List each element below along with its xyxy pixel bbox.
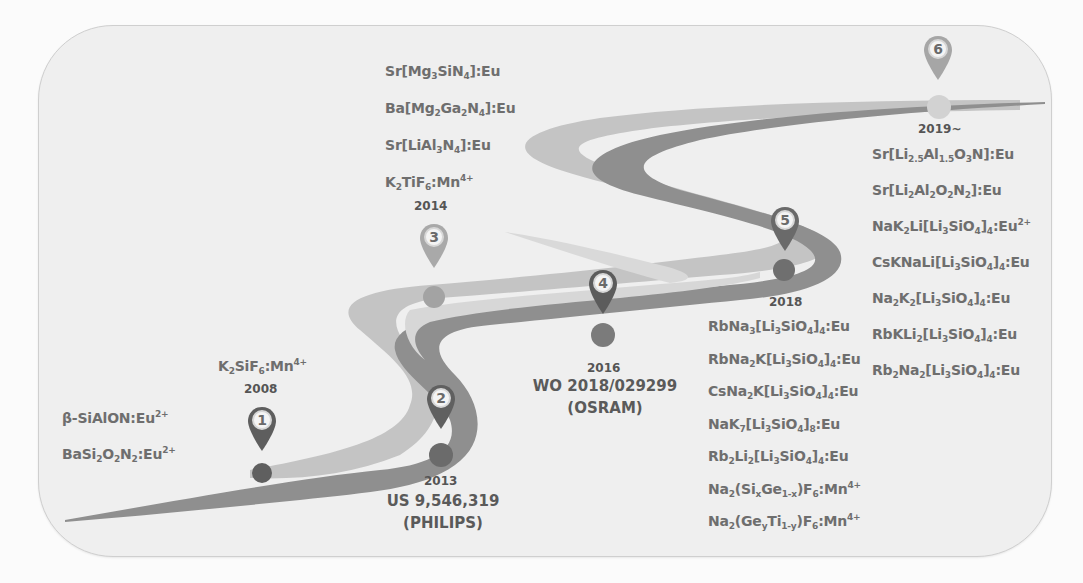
phosphor-formula: NaK7[Li3SiO4]8:Eu <box>708 416 861 432</box>
phosphor-formula: Na2(GeyTi1-y)F6:Mn4+ <box>708 513 861 529</box>
year-label-2: 2013 <box>424 474 457 488</box>
map-pin-6: 6 <box>921 34 955 80</box>
formula-text: :Eu <box>824 448 849 464</box>
formula-text: ]:Eu <box>971 182 1002 198</box>
formula-text: :Eu <box>993 218 1018 234</box>
formula-text: Na <box>708 481 729 497</box>
phosphor-list-3: Sr[Mg3SiN4]:EuBa[Mg2Ga2N4]:EuSr[LiAl3N4]… <box>385 63 515 190</box>
year-label-6: 2019~ <box>918 122 961 136</box>
formula-text: ]:Eu <box>460 137 491 153</box>
formula-text: RbNa <box>708 351 749 367</box>
phosphor-formula: RbNa3[Li3SiO4]4:Eu <box>708 318 861 334</box>
phosphor-list-5: RbNa3[Li3SiO4]4:EuRbNa2K[Li3SiO4]4:EuCsN… <box>708 318 861 529</box>
formula-text: SiO <box>791 351 817 367</box>
formula-text: Al <box>923 146 938 162</box>
pin-number: 3 <box>424 227 444 247</box>
milestone-dot-4 <box>591 323 615 347</box>
formula-text: (Ge <box>735 513 762 529</box>
year-label-3: 2014 <box>414 199 447 213</box>
formula-text: Ti <box>767 513 781 529</box>
formula-text: RbNa <box>708 318 749 334</box>
formula-text: [Li <box>916 290 936 306</box>
formula-superscript: 2+ <box>155 409 168 419</box>
formula-text: N]:Eu <box>972 146 1014 162</box>
formula-text: :Eu <box>986 290 1011 306</box>
formula-text: SiO <box>948 218 974 234</box>
formula-text: )F <box>797 481 813 497</box>
formula-text: Na <box>708 513 729 529</box>
phosphor-formula: Sr[LiAl3N4]:Eu <box>385 137 515 153</box>
patent-block-2: US 9,546,319 (PHILIPS) <box>378 490 508 534</box>
phosphor-formula: Na2(SixGe1-x)F6:Mn4+ <box>708 481 861 497</box>
formula-text: SiO <box>941 290 967 306</box>
phosphor-formula: RbNa2K[Li3SiO4]4:Eu <box>708 351 861 367</box>
milestone-dot-2 <box>429 443 453 467</box>
milestone-dot-1 <box>252 463 272 483</box>
formula-text: RbKLi <box>872 326 916 342</box>
formula-text: Na <box>872 290 893 306</box>
phosphor-formula: Ba[Mg2Ga2N4]:Eu <box>385 100 515 116</box>
formula-text: Li <box>734 448 747 464</box>
formula-text: SiO <box>779 448 805 464</box>
formula-text: Sr[Mg <box>385 63 431 79</box>
map-pin-1: 1 <box>245 405 279 451</box>
formula-text: O <box>935 182 947 198</box>
formula-text: Rb <box>708 448 728 464</box>
formula-text: :Eu <box>816 416 841 432</box>
formula-text: Ga <box>441 100 462 116</box>
map-pin-5: 5 <box>768 205 802 251</box>
formula-text: (Si <box>735 481 756 497</box>
formula-text: Rb <box>872 362 892 378</box>
formula-text: Sr[LiAl <box>385 137 436 153</box>
formula-subscript: 1-y <box>781 521 796 531</box>
year-label-1: 2008 <box>244 382 277 396</box>
formula-text: :Eu <box>1005 254 1030 270</box>
formula-text: )F <box>797 513 813 529</box>
formula-text: CsKNaLi[Li <box>872 254 954 270</box>
map-pin-2: 2 <box>424 383 458 429</box>
formula-text: [Li <box>754 448 774 464</box>
milestone-dot-3 <box>423 286 445 308</box>
formula-superscript: 4+ <box>460 173 473 183</box>
phosphor-formula: CsKNaLi[Li3SiO4]4:Eu <box>872 254 1031 270</box>
formula-text: :Eu <box>995 362 1020 378</box>
formula-text: ]:Eu <box>469 63 500 79</box>
formula-superscript: 2+ <box>162 445 175 455</box>
phosphor-formula: Sr[Li2Al2O2N2]:Eu <box>872 182 1031 198</box>
formula-text: SiO <box>951 362 977 378</box>
phosphor-formula: CsNa2K[Li3SiO4]4:Eu <box>708 383 861 399</box>
pin-number: 6 <box>928 39 948 59</box>
phosphor-list-6: Sr[Li2.5Al1.5O3N]:EuSr[Li2Al2O2N2]:EuNaK… <box>872 146 1031 378</box>
formula-text: K <box>899 290 910 306</box>
formula-text: NaK <box>872 218 903 234</box>
formula-text: :Mn <box>819 481 848 497</box>
formula-superscript: 4+ <box>294 357 307 367</box>
map-pin-3: 3 <box>417 222 451 268</box>
formula-text: SiN <box>437 63 463 79</box>
formula-text: SiO <box>948 326 974 342</box>
formula-text: [Li <box>755 318 775 334</box>
phosphor-formula: Rb2Li2[Li3SiO4]4:Eu <box>708 448 861 464</box>
formula-subscript: 1.5 <box>939 154 954 164</box>
phosphor-formula: Sr[Li2.5Al1.5O3N]:Eu <box>872 146 1031 162</box>
formula-text: Li[Li <box>909 218 942 234</box>
formula-text: BaSi <box>62 446 96 462</box>
patent-assignee: (PHILIPS) <box>378 512 508 534</box>
phosphor-formula: BaSi2O2N2:Eu2+ <box>62 446 176 462</box>
formula-text: β-SiAlON:Eu <box>62 410 155 426</box>
pin-number: 2 <box>431 388 451 408</box>
phosphor-formula: RbKLi2[Li3SiO4]4:Eu <box>872 326 1031 342</box>
formula-text: CsNa <box>708 383 747 399</box>
pin-number: 5 <box>775 210 795 230</box>
formula-text: NaK <box>708 416 739 432</box>
formula-text: N <box>467 100 479 116</box>
pin-number: 4 <box>593 273 613 293</box>
pin-number: 1 <box>252 410 272 430</box>
formula-text: :Eu <box>993 326 1018 342</box>
formula-text: N <box>442 137 454 153</box>
formula-text: TiF <box>402 174 425 190</box>
formula-text: :Eu <box>825 318 850 334</box>
formula-text: [Li <box>925 362 945 378</box>
patent-number: WO 2018/029299 <box>530 375 680 397</box>
formula-text: K[Li <box>753 383 783 399</box>
